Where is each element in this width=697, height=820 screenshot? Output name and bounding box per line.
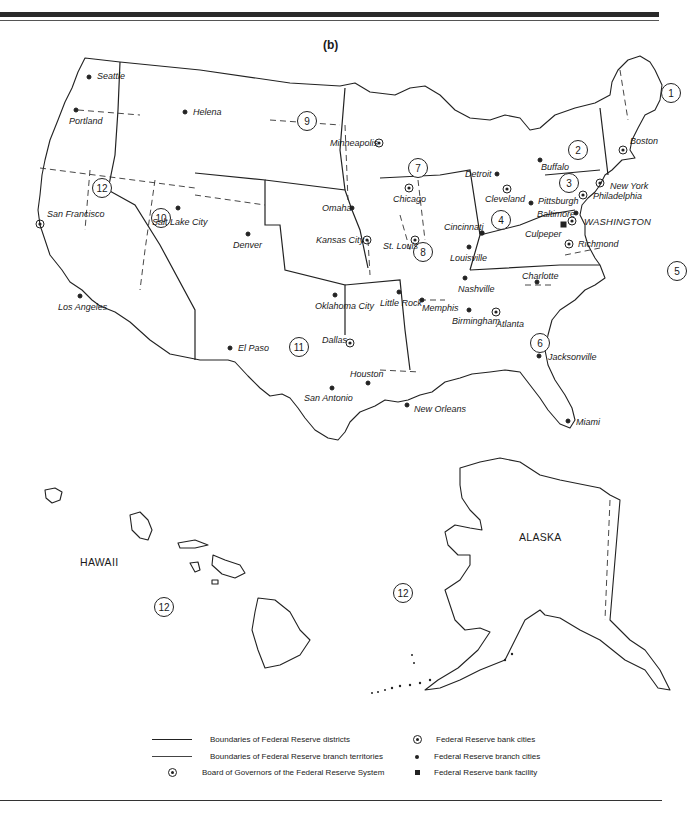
state-label-alaska: ALASKA: [519, 531, 562, 543]
city-label-helena: Helena: [193, 107, 222, 117]
legend-item-board-of-governors: Board of Governors of the Federal Reserv…: [168, 768, 384, 777]
city-label-houston: Houston: [350, 369, 384, 379]
legend-item-branch-cities: Federal Reserve branch cities: [415, 752, 540, 761]
legend-item-bank-cities: Federal Reserve bank cities: [413, 735, 535, 744]
thin-line-icon: [152, 756, 192, 757]
city-label-atlanta: Atlanta: [496, 319, 524, 329]
legend-item-bank-facility: Federal Reserve bank facility: [415, 768, 537, 777]
city-label-oklahoma-city: Oklahoma City: [315, 301, 374, 311]
city-label-portland: Portland: [69, 116, 103, 126]
city-label-buffalo: Buffalo: [541, 162, 569, 172]
city-label-salt-lake-city: Salt Lake City: [152, 217, 208, 227]
city-label-memphis: Memphis: [422, 303, 459, 313]
legend-item-branch-boundaries: Boundaries of Federal Reserve branch ter…: [152, 752, 383, 761]
circled-dot-icon: [168, 768, 177, 777]
city-label-cincinnati: Cincinnati: [444, 222, 484, 232]
city-label-charlotte: Charlotte: [522, 271, 559, 281]
city-label-richmond: Richmond: [578, 239, 619, 249]
city-label-el-paso: El Paso: [238, 343, 269, 353]
thick-line-icon: [152, 739, 192, 741]
city-label-miami: Miami: [576, 417, 600, 427]
city-label-pittsburgh: Pittsburgh: [538, 196, 579, 206]
city-label-omaha: Omaha: [322, 203, 352, 213]
city-label-chicago: Chicago: [393, 194, 426, 204]
city-label-baltimore: Baltimore: [537, 209, 575, 219]
city-label-new-york: New York: [610, 181, 648, 191]
city-label-culpeper: Culpeper: [525, 229, 562, 239]
city-label-philadelphia: Philadelphia: [593, 191, 642, 201]
city-label-kansas-city: Kansas City: [316, 235, 364, 245]
city-label-washington: WASHINGTON: [584, 216, 651, 227]
city-label-seattle: Seattle: [97, 71, 125, 81]
circled-dot-icon: [413, 735, 422, 744]
state-label-hawaii: HAWAII: [80, 556, 118, 568]
footer-rule: [0, 800, 662, 801]
city-label-new-orleans: New Orleans: [414, 404, 466, 414]
city-label-jacksonville: Jacksonville: [548, 352, 597, 362]
legend-item-district-boundaries: Boundaries of Federal Reserve districts: [152, 735, 350, 744]
square-icon: [415, 770, 420, 775]
city-label-minneapolis: Minneapolis: [330, 138, 378, 148]
city-label-st-louis: St. Louis: [383, 241, 418, 251]
city-label-dallas: Dallas: [322, 335, 347, 345]
city-label-birmingham: Birmingham: [452, 316, 500, 326]
city-label-boston: Boston: [630, 136, 658, 146]
city-label-san-antonio: San Antonio: [304, 393, 353, 403]
city-label-nashville: Nashville: [458, 284, 495, 294]
city-markers: [0, 0, 697, 820]
city-label-denver: Denver: [233, 240, 262, 250]
dot-icon: [415, 755, 419, 759]
city-label-cleveland: Cleveland: [485, 194, 525, 204]
city-label-little-rock: Little Rock: [380, 298, 422, 308]
city-label-detroit: Detroit: [465, 169, 492, 179]
city-label-louisville: Louisville: [450, 253, 487, 263]
city-label-los-angeles: Los Angeles: [58, 302, 107, 312]
city-label-san-francisco: San Francisco: [47, 209, 105, 219]
